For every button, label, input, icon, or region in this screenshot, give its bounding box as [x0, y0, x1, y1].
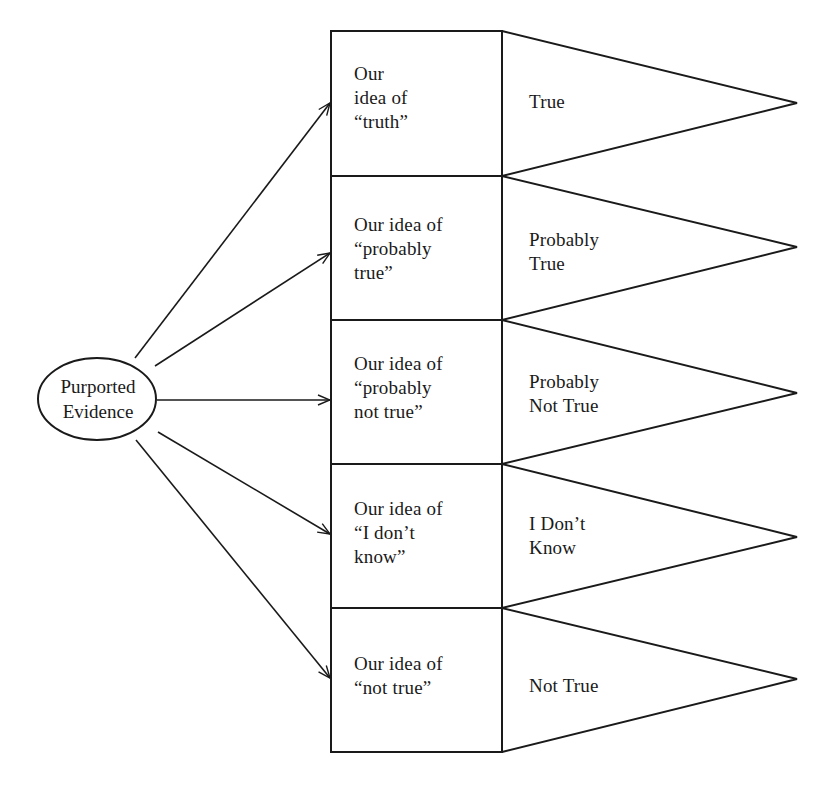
idea-line: Our idea of: [354, 352, 494, 376]
idea-not-true-label: Our idea of “not true”: [354, 652, 494, 700]
idea-probably-not-true-label: Our idea of “probably not true”: [354, 352, 494, 424]
evidence-label-line2: Evidence: [52, 399, 144, 424]
outcome-line: True: [529, 90, 649, 114]
idea-line: true”: [354, 261, 494, 285]
outcome-line: Not True: [529, 394, 649, 418]
idea-line: Our idea of: [354, 497, 494, 521]
outcome-probably-not-true-label: Probably Not True: [529, 370, 649, 418]
idea-line: Our idea of: [354, 652, 494, 676]
idea-line: Our idea of: [354, 213, 494, 237]
idea-line: “I don’t: [354, 521, 494, 545]
outcome-line: True: [529, 252, 649, 276]
idea-line: “probably: [354, 237, 494, 261]
idea-i-dont-know-label: Our idea of “I don’t know”: [354, 497, 494, 569]
outcome-line: Know: [529, 536, 649, 560]
outcome-line: Not True: [529, 674, 649, 698]
idea-line: idea of: [354, 86, 494, 110]
idea-line: Our: [354, 62, 494, 86]
outcome-probably-true-label: Probably True: [529, 228, 649, 276]
idea-truth-label: Our idea of “truth”: [354, 62, 494, 134]
idea-line: know”: [354, 545, 494, 569]
evidence-label-line1: Purported: [52, 374, 144, 399]
idea-line: “not true”: [354, 676, 494, 700]
outcome-line: I Don’t: [529, 512, 649, 536]
arrows: [135, 103, 330, 678]
arrow-to-truth: [135, 103, 330, 358]
arrow-to-probably-true: [155, 253, 330, 366]
outcome-line: Probably: [529, 370, 649, 394]
idea-line: not true”: [354, 400, 494, 424]
outcome-line: Probably: [529, 228, 649, 252]
evidence-label: Purported Evidence: [52, 374, 144, 424]
outcome-true-label: True: [529, 90, 649, 114]
idea-line: “probably: [354, 376, 494, 400]
idea-line: “truth”: [354, 110, 494, 134]
outcome-i-dont-know-label: I Don’t Know: [529, 512, 649, 560]
arrow-to-i-dont-know: [158, 432, 330, 534]
outcome-not-true-label: Not True: [529, 674, 649, 698]
idea-probably-true-label: Our idea of “probably true”: [354, 213, 494, 285]
